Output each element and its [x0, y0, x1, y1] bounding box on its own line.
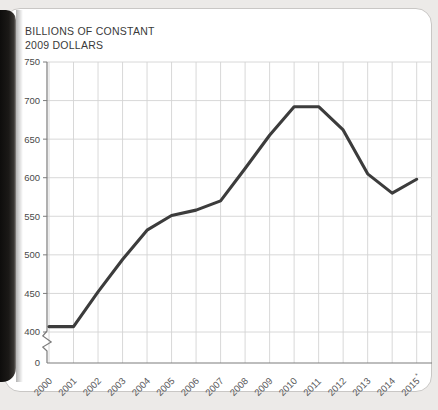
y-axis-tick-label: 0	[35, 357, 40, 368]
svg-text:2012: 2012	[325, 375, 348, 398]
x-axis-tick-label: 2001	[56, 375, 79, 398]
svg-text:2011: 2011	[301, 376, 323, 398]
x-axis-tick-label: 2009	[252, 375, 275, 398]
svg-text:2002: 2002	[80, 375, 103, 398]
svg-text:2015: 2015	[399, 375, 422, 398]
x-axis-tick-label: 2006	[178, 375, 201, 398]
y-axis-tick-label: 650	[24, 134, 40, 145]
y-axis-tick-label: 500	[24, 249, 40, 260]
x-axis-tick-label: 2012	[325, 375, 348, 398]
svg-text:2003: 2003	[105, 375, 128, 398]
x-axis-tick-label: 2002	[80, 375, 103, 398]
x-axis-tick-label: 2000	[31, 375, 54, 398]
svg-text:2009: 2009	[252, 375, 275, 398]
svg-text:2004: 2004	[129, 375, 152, 398]
x-axis-tick-label: 2014	[374, 375, 397, 398]
page-binding-shadow	[0, 10, 16, 382]
y-axis-tick-label: 550	[24, 211, 40, 222]
svg-text:2000: 2000	[31, 375, 54, 398]
svg-text:2008: 2008	[227, 375, 250, 398]
y-axis-tick-label: 600	[24, 172, 40, 183]
svg-text:2007: 2007	[203, 375, 226, 398]
x-axis-tick-label: 2003	[105, 375, 128, 398]
x-axis-tick-label: 2005	[154, 375, 177, 398]
svg-text:2010: 2010	[276, 375, 299, 398]
x-axis-tick-label: 2010	[276, 375, 299, 398]
axes	[43, 62, 432, 363]
y-axis-tick-label: 450	[24, 288, 40, 299]
x-axis-tick-label: 2008	[227, 375, 250, 398]
page-root: BILLIONS OF CONSTANT 2009 DOLLARS 040045…	[0, 0, 438, 410]
x-axis-tick-labels: 2000200120022003200420052006200720082009…	[31, 371, 424, 398]
chart-plot-area: 0400450500550600650700750 20002001200220…	[0, 0, 438, 410]
x-axis-tick-label: 2007	[203, 375, 226, 398]
svg-text:2013: 2013	[350, 375, 373, 398]
svg-text:2014: 2014	[374, 375, 397, 398]
x-axis-tick-label: 2015*	[398, 371, 425, 398]
x-axis-tick-label: 2004	[129, 375, 152, 398]
grid-lines	[47, 62, 432, 363]
y-axis-tick-label: 400	[24, 326, 40, 337]
x-axis-tick-label: 2013	[350, 375, 373, 398]
line-chart-svg: 0400450500550600650700750 20002001200220…	[0, 0, 438, 410]
svg-text:2006: 2006	[178, 375, 201, 398]
y-axis-tick-labels: 0400450500550600650700750	[24, 56, 40, 368]
svg-text:2005: 2005	[154, 375, 177, 398]
y-axis-tick-label: 750	[24, 56, 40, 67]
y-axis-tick-label: 700	[24, 95, 40, 106]
x-axis-tick-label: 2011	[301, 376, 323, 398]
svg-text:2001: 2001	[56, 375, 79, 398]
